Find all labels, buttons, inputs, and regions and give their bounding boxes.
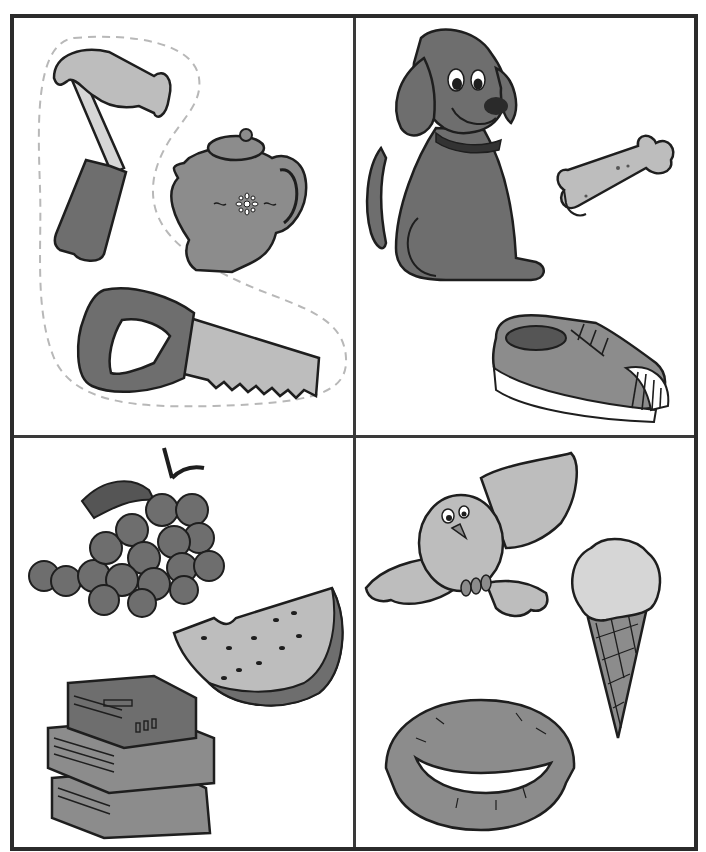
panel-bottom-left xyxy=(14,438,353,847)
dog-bone-icon[interactable] xyxy=(558,136,674,216)
teapot-icon[interactable] xyxy=(171,129,306,272)
saw-icon[interactable] xyxy=(78,288,319,398)
worksheet xyxy=(10,14,698,851)
panel-top-left xyxy=(14,18,353,435)
panel-top-right xyxy=(356,18,694,435)
ice-cream-cone-icon[interactable] xyxy=(572,539,660,738)
grapes-icon[interactable] xyxy=(29,448,224,617)
bird-icon[interactable] xyxy=(366,453,577,616)
nest-with-eggs-icon[interactable] xyxy=(386,700,574,830)
hammer-icon[interactable] xyxy=(54,50,170,261)
panel-bottom-right xyxy=(356,438,694,847)
stack-of-books-icon[interactable] xyxy=(48,676,214,838)
sneaker-icon[interactable] xyxy=(493,315,668,422)
dog-icon[interactable] xyxy=(367,30,544,280)
watermelon-slice-icon[interactable] xyxy=(174,588,342,705)
